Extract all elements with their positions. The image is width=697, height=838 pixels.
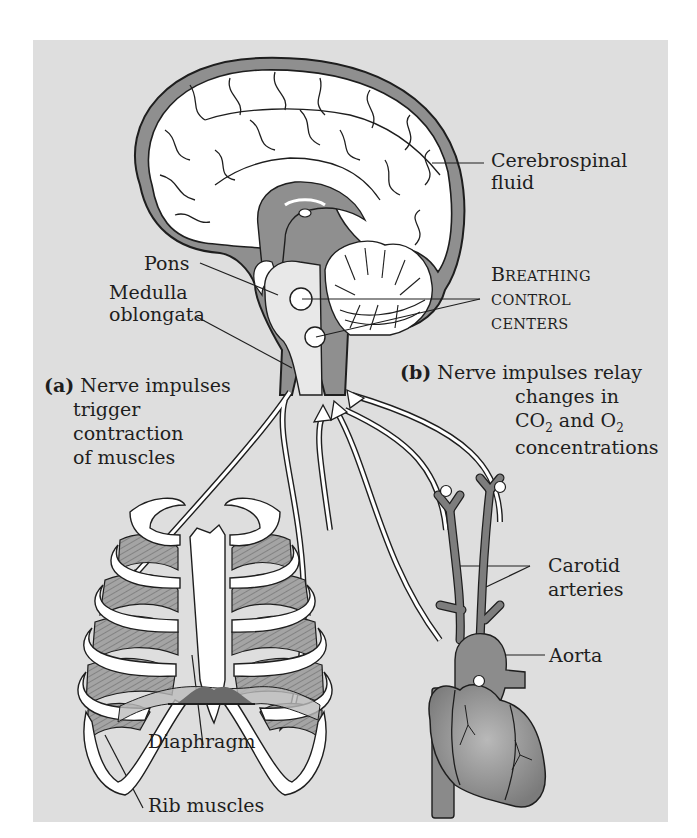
arrow-head-medulla-1 [314,405,331,422]
label-diaphragm: Diaphragm [148,730,256,752]
label-line: Cerebrospinal [491,149,627,171]
label-line: CONTROL [491,288,591,312]
label-line: fluid [491,171,627,193]
label-text: CO [515,409,545,431]
label-line: changes in [400,384,659,408]
label-text: REATHING [505,268,591,284]
label-a-nerve-impulses-trigger: (a) Nerve impulses trigger contraction o… [44,373,231,469]
label-text: Nerve impulses relay [437,361,642,383]
label-text: and O [553,409,616,431]
label-medulla-oblongata: Medulla oblongata [109,281,205,325]
label-line: of muscles [44,445,231,469]
label-line: CO2 and O2 [400,408,659,435]
arrow-head-medulla-3 [347,390,364,408]
label-tag: (a) [44,374,74,396]
label-line: (b) Nerve impulses relay [400,360,659,384]
brain [135,58,464,395]
label-text: Nerve impulses [80,374,230,396]
label-line: oblongata [109,303,205,325]
medulla-control-center [305,327,325,347]
label-carotid-arteries: Carotid arteries [548,553,623,601]
label-aorta: Aorta [549,644,602,666]
subscript: 2 [616,421,624,435]
label-line: BREATHING [491,262,591,288]
label-b-nerve-impulses-relay: (b) Nerve impulses relay changes in CO2 … [400,360,659,459]
label-line: (a) Nerve impulses [44,373,231,397]
label-line: contraction [44,421,231,445]
label-line: Carotid [548,553,623,577]
label-pons: Pons [144,252,189,274]
label-line: concentrations [400,435,659,459]
label-breathing-control-centers: BREATHING CONTROL CENTERS [491,262,591,336]
label-cerebrospinal-fluid: Cerebrospinal fluid [491,149,627,193]
label-line: trigger [44,397,231,421]
label-text: B [491,263,505,285]
label-line: CENTERS [491,312,591,336]
label-line: arteries [548,577,623,601]
subscript: 2 [545,421,553,435]
label-tag: (b) [400,361,431,383]
cerebellum [325,241,432,335]
label-line: Medulla [109,281,205,303]
label-rib-muscles: Rib muscles [148,794,264,816]
